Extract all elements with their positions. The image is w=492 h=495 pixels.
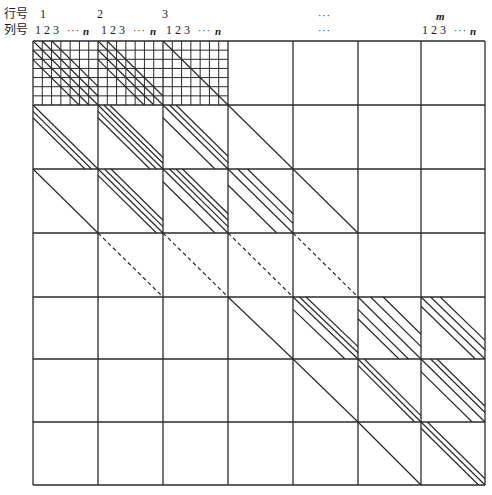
diagonal-bands <box>33 41 485 485</box>
block-matrix-diagram <box>0 0 492 495</box>
